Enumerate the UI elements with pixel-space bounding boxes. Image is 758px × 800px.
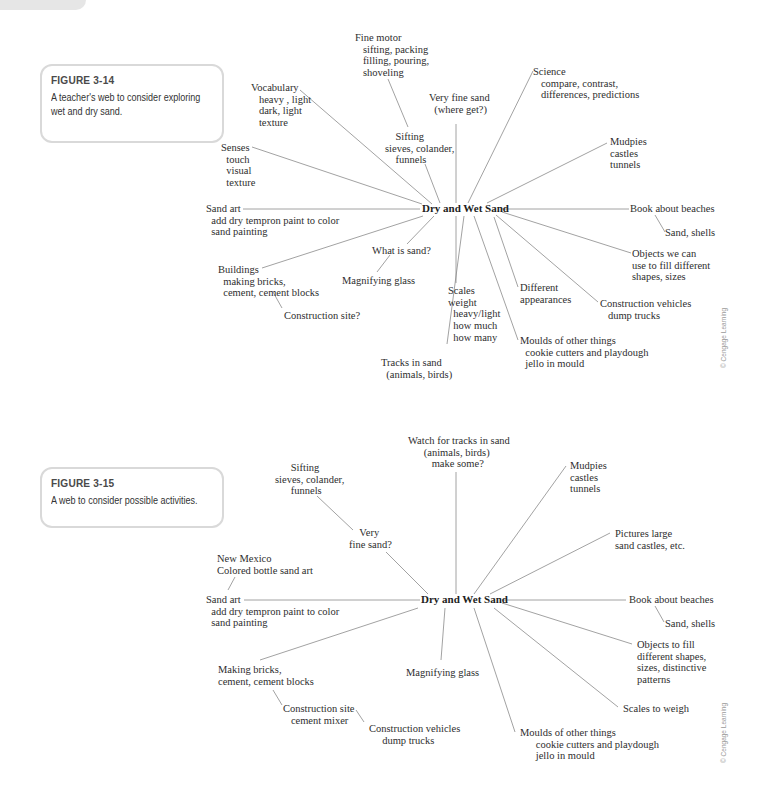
figure-3-14-center-node: Dry and Wet Sand <box>422 203 509 215</box>
node-sand-shells: Sand, shells <box>665 227 715 239</box>
node-sand-shells: Sand, shells <box>665 618 715 630</box>
node-construction-site: Construction site cement mixer <box>283 703 354 726</box>
node-making-bricks: Making bricks, cement, cement blocks <box>218 664 314 687</box>
figure-3-15-center-node: Dry and Wet Sand <box>421 594 508 606</box>
node-what-is-sand: What is sand? <box>372 245 431 257</box>
figure-3-14-title: FIGURE 3-14 <box>51 74 193 86</box>
node-mudpies: Mudpies castles tunnels <box>570 460 607 495</box>
node-pictures: Pictures large sand castles, etc. <box>615 528 685 551</box>
figure-3-14-credit: © Cengage Learning <box>720 308 727 368</box>
node-fine-motor: Fine motor sifting, packing filling, pou… <box>355 32 429 79</box>
figure-3-15-caption: FIGURE 3-15 A web to consider possible a… <box>40 467 224 528</box>
node-tracks-in-sand: Tracks in sand (animals, birds) <box>381 357 452 380</box>
node-sifting: Sifting sieves, colander, funnels <box>275 462 344 497</box>
node-buildings: Buildings making bricks, cement, cement … <box>218 264 319 299</box>
node-scales-to-weigh: Scales to weigh <box>623 703 689 715</box>
node-very-fine-sand: Very fine sand? <box>349 527 392 550</box>
node-construction-site: Construction site? <box>284 310 360 322</box>
node-magnifying-glass: Magnifying glass <box>406 667 479 679</box>
node-senses: Senses touch visual texture <box>221 142 255 189</box>
figure-3-14-caption: FIGURE 3-14 A teacher's web to consider … <box>40 64 224 143</box>
node-sifting: Sifting sieves, colander, funnels <box>385 131 454 166</box>
node-different-appearances: Different appearances <box>520 282 571 305</box>
figure-3-15-title: FIGURE 3-15 <box>51 477 193 489</box>
node-book-about-beaches: Book about beaches <box>630 203 715 215</box>
node-magnifying-glass: Magnifying glass <box>342 275 415 287</box>
node-vocabulary: Vocabulary heavy , light dark, light tex… <box>251 82 311 129</box>
node-construction-vehicles: Construction vehicles dump trucks <box>369 723 460 746</box>
node-objects: Objects to fill different shapes, sizes,… <box>637 639 706 686</box>
node-moulds: Moulds of other things cookie cutters an… <box>520 335 649 370</box>
node-watch-tracks: Watch for tracks in sand (animals, birds… <box>408 435 510 470</box>
figure-3-14-caption-line-2: wet and dry sand. <box>51 104 189 118</box>
node-scales: Scales weight heavy/light how much how m… <box>448 285 501 344</box>
node-moulds: Moulds of other things cookie cutters an… <box>520 727 659 762</box>
node-mudpies: Mudpies castles tunnels <box>610 136 647 171</box>
node-sand-art: Sand art add dry tempron paint to color … <box>206 203 339 238</box>
node-book-about-beaches: Book about beaches <box>629 594 714 606</box>
node-sand-art: Sand art add dry tempron paint to color … <box>206 594 339 629</box>
node-objects: Objects we can use to fill different sha… <box>632 248 710 283</box>
node-construction-vehicles: Construction vehicles dump trucks <box>600 298 691 321</box>
node-new-mexico: New Mexico Colored bottle sand art <box>217 553 313 576</box>
node-very-fine-sand: Very fine sand (where get?) <box>429 92 490 115</box>
figure-3-14-caption-line-1: A teacher's web to consider exploring <box>51 90 189 104</box>
node-science: Science compare, contrast, differences, … <box>533 66 639 101</box>
figure-3-15-caption-line-1: A web to consider possible activities. <box>51 493 189 507</box>
figure-3-15-credit: © Cengage Learning <box>720 703 727 763</box>
